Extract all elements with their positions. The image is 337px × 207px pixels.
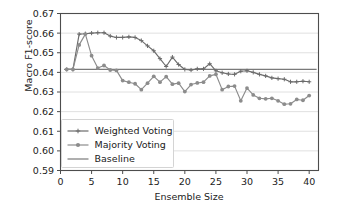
marker-circle [83, 32, 87, 36]
marker-circle [239, 99, 243, 103]
x-tick-label: 15 [148, 176, 160, 187]
marker-circle [183, 90, 187, 94]
y-tick-label: 0.63 [33, 86, 54, 97]
y-tick-label: 0.67 [33, 8, 54, 19]
chart-legend: Weighted VotingMajority VotingBaseline [62, 120, 174, 168]
marker-circle [96, 66, 100, 70]
marker-circle [177, 81, 181, 85]
y-tick-label: 0.60 [33, 145, 54, 156]
marker-circle [301, 98, 305, 102]
marker-circle [251, 93, 255, 97]
x-tick-label: 30 [241, 176, 253, 187]
marker-circle [202, 80, 206, 84]
x-tick-label: 35 [272, 176, 284, 187]
marker-circle [276, 99, 280, 103]
marker-circle [270, 96, 274, 100]
marker-circle [90, 54, 94, 58]
x-tick-label: 10 [117, 176, 129, 187]
marker-circle [108, 68, 112, 72]
marker-circle [127, 80, 131, 84]
marker-circle [214, 72, 218, 76]
y-tick-label: 0.61 [33, 126, 54, 137]
y-tick-label: 0.64 [33, 67, 54, 78]
chart-figure: Macro F1-score Ensemble Size 0.590.600.6… [0, 0, 337, 207]
marker-circle [189, 83, 193, 87]
marker-circle [220, 88, 224, 92]
marker-circle [71, 68, 75, 72]
marker-circle [77, 43, 81, 47]
marker-circle [289, 102, 293, 106]
marker-circle [139, 88, 143, 92]
marker-circle [152, 74, 156, 78]
series-weighted-voting [65, 31, 312, 84]
y-tick-label: 0.65 [33, 47, 54, 58]
legend-label: Baseline [95, 153, 135, 164]
marker-circle [146, 81, 150, 85]
marker-circle [102, 64, 106, 68]
x-tick-label: 25 [210, 176, 222, 187]
marker-circle [171, 82, 175, 86]
x-tick-label: 0 [57, 176, 63, 187]
y-tick-label: 0.59 [33, 165, 54, 176]
marker-circle [195, 81, 199, 85]
marker-circle [115, 69, 119, 73]
legend-marker-circle [76, 143, 80, 147]
marker-circle [233, 84, 237, 88]
marker-circle [258, 96, 262, 100]
series-line [67, 33, 309, 82]
marker-circle [245, 86, 249, 90]
y-tick-label: 0.66 [33, 28, 54, 39]
marker-circle [208, 74, 212, 78]
x-tick-label: 40 [303, 176, 315, 187]
marker-circle [65, 68, 69, 72]
marker-circle [264, 97, 268, 101]
marker-circle [226, 85, 230, 89]
legend-label: Majority Voting [95, 139, 166, 150]
marker-circle [158, 80, 162, 84]
y-tick-label: 0.62 [33, 106, 54, 117]
marker-circle [133, 82, 137, 86]
x-tick-label: 20 [179, 176, 191, 187]
chart-plot-area: 0.590.600.610.620.630.640.650.660.670510… [0, 0, 337, 207]
marker-circle [307, 94, 311, 98]
marker-circle [164, 75, 168, 79]
marker-circle [295, 98, 299, 102]
x-tick-label: 5 [89, 176, 95, 187]
marker-circle [282, 102, 286, 106]
legend-label: Weighted Voting [95, 125, 173, 136]
marker-circle [121, 79, 125, 83]
